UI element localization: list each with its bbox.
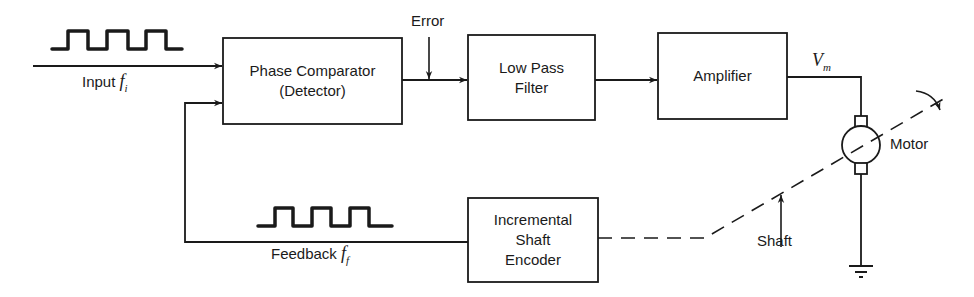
amplifier-line1: Amplifier bbox=[693, 66, 751, 86]
phase-comparator-line1: Phase Comparator bbox=[250, 61, 376, 81]
phase-comparator-label: Phase Comparator (Detector) bbox=[223, 38, 402, 124]
input-square-wave-icon bbox=[52, 31, 182, 49]
low-pass-filter-line1: Low Pass bbox=[499, 58, 564, 78]
feedback-subscript: f bbox=[346, 254, 349, 266]
encoder-label: Incremental Shaft Encoder bbox=[468, 198, 598, 282]
input-label-text: Input bbox=[82, 73, 120, 90]
input-label: Input fi bbox=[82, 72, 128, 92]
encoder-line3: Encoder bbox=[505, 250, 561, 270]
input-subscript: i bbox=[125, 82, 128, 94]
amplifier-label: Amplifier bbox=[658, 33, 787, 119]
motor-voltage-line bbox=[787, 77, 861, 116]
low-pass-filter-line2: Filter bbox=[515, 78, 548, 98]
vm-subscript: m bbox=[823, 61, 831, 73]
feedback-label-text: Feedback bbox=[271, 245, 341, 262]
vm-label: Vm bbox=[812, 51, 831, 71]
rotation-arrow-icon bbox=[916, 91, 940, 110]
feedback-label: Feedback ff bbox=[271, 244, 349, 264]
shaft-label: Shaft bbox=[757, 232, 792, 250]
motor-label: Motor bbox=[890, 135, 928, 153]
encoder-line1: Incremental bbox=[494, 210, 572, 230]
pll-motor-control-diagram: Input fi Error Phase Comparator (Detecto… bbox=[0, 0, 974, 297]
dc-motor-icon bbox=[842, 116, 880, 174]
low-pass-filter-label: Low Pass Filter bbox=[468, 35, 595, 120]
ground-icon bbox=[849, 266, 873, 277]
error-label: Error bbox=[411, 12, 444, 30]
input-symbol: f bbox=[120, 71, 125, 91]
vm-symbol: V bbox=[812, 50, 823, 70]
encoder-line2: Shaft bbox=[515, 230, 550, 250]
phase-comparator-line2: (Detector) bbox=[279, 81, 346, 101]
feedback-square-wave-icon bbox=[258, 208, 392, 226]
